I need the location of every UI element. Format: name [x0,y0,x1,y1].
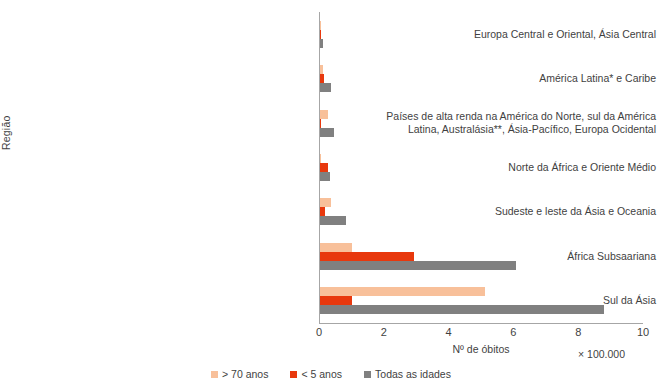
bar [320,296,352,305]
y-axis-title: Região [0,70,16,150]
category-label: Europa Central e Oriental, Ásia Central [354,28,662,41]
category-label-line: África Subsaariana [354,250,656,263]
bar [320,74,324,83]
category-label-line: América Latina* e Caribe [354,72,656,85]
category-label-line: Sudeste e leste da Ásia e Oceania [354,205,656,218]
bar-chart: Região Europa Central e Oriental, Ásia C… [0,0,662,390]
bar [320,243,352,252]
bar [320,39,323,48]
bar [320,83,331,92]
bar [320,65,323,74]
x-axis-tick-label: 8 [563,326,593,338]
x-axis-tick-label: 6 [498,326,528,338]
legend-label: < 5 anos [301,368,342,380]
bar [320,110,328,119]
bar [320,154,321,163]
category-label: Países de alta renda na América do Norte… [354,110,662,136]
category-label-line: Europa Central e Oriental, Ásia Central [354,28,656,41]
bar [320,30,321,39]
legend-item[interactable]: > 70 anos [211,368,268,380]
x-axis-multiplier: × 100.000 [578,348,625,360]
category-label: América Latina* e Caribe [354,72,662,85]
category-label: África Subsaariana [354,250,662,263]
x-axis-line [319,323,643,324]
category-label: Norte da África e Oriente Médio [354,161,662,174]
legend-item[interactable]: Todas as idades [364,368,451,380]
bar [320,21,321,30]
category-label: Sul da Ásia [354,294,662,307]
legend-swatch-icon [364,371,371,378]
x-axis-tick-label: 0 [304,326,334,338]
bar [320,172,330,181]
legend-label: Todas as idades [375,368,451,380]
x-axis-tick-label: 2 [369,326,399,338]
x-axis-tick-label: 10 [628,326,658,338]
legend-label: > 70 anos [222,368,268,380]
category-label-line: Países de alta renda na América do Norte… [354,110,656,123]
legend-swatch-icon [290,371,297,378]
x-axis-tick-label: 4 [434,326,464,338]
category-label-line: Sul da Ásia [354,294,656,307]
category-label-line: Latina, Australásia**, Ásia-Pacífico, Eu… [354,123,656,136]
category-label: Sudeste e leste da Ásia e Oceania [354,205,662,218]
bar [320,128,334,137]
legend: > 70 anos< 5 anosTodas as idades [0,368,662,380]
legend-item[interactable]: < 5 anos [290,368,342,380]
bar [320,207,325,216]
category-label-line: Norte da África e Oriente Médio [354,161,656,174]
bar [320,198,331,207]
bar [320,119,321,128]
bar [320,216,346,225]
bar [320,163,328,172]
legend-swatch-icon [211,371,218,378]
